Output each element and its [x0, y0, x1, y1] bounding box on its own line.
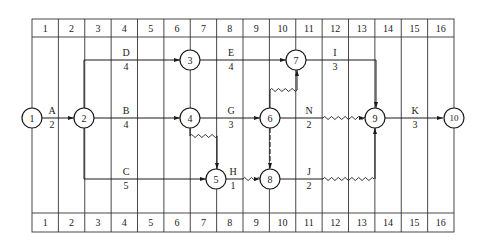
timeline-bottom-label: 5: [148, 217, 153, 228]
arrowhead-icon: [174, 116, 180, 120]
timeline-bottom-label: 4: [122, 217, 127, 228]
timeline-bottom-label: 9: [254, 217, 259, 228]
edge-dummy-6-7-wavy: [270, 89, 297, 92]
edge-d: [84, 60, 180, 108]
node-5: 5: [206, 169, 226, 189]
node-1: 1: [22, 108, 42, 128]
timeline-top-label: 7: [201, 23, 206, 34]
arrowhead-icon: [268, 163, 272, 169]
svg-text:6: 6: [268, 113, 273, 124]
timeline-bottom-label: 13: [357, 217, 367, 228]
node-7: 7: [286, 50, 306, 70]
svg-text:9: 9: [373, 113, 378, 124]
node-9: 9: [365, 108, 385, 128]
svg-text:8: 8: [268, 174, 273, 185]
timeline-top-label: 9: [254, 23, 259, 34]
timeline-bottom-label: 6: [175, 217, 180, 228]
timeline-bottom-label: 11: [304, 217, 314, 228]
edge-dummy-4-5-wavy: [190, 135, 217, 138]
activity-k-duration: 3: [413, 119, 418, 130]
svg-text:1: 1: [30, 113, 35, 124]
node-3: 3: [180, 50, 200, 70]
timeline-top-label: 5: [148, 23, 153, 34]
svg-text:10: 10: [450, 113, 460, 123]
activity-g-name: G: [227, 105, 234, 116]
timeline-top-label: 11: [304, 23, 314, 34]
arrowhead-icon: [215, 163, 219, 169]
timeline-top-label: 3: [95, 23, 100, 34]
svg-text:3: 3: [188, 55, 193, 66]
svg-text:7: 7: [294, 55, 299, 66]
activity-j-name: J: [307, 166, 311, 177]
timeline-bottom-label: 7: [201, 217, 206, 228]
activity-h-name: H: [229, 166, 236, 177]
svg-text:4: 4: [188, 113, 193, 124]
timeline-bottom-label: 2: [69, 217, 74, 228]
timeline-top-label: 12: [330, 23, 340, 34]
activity-a-name: A: [48, 105, 56, 116]
activity-b-name: B: [123, 105, 130, 116]
timeline-bottom-label: 3: [95, 217, 100, 228]
timeline-bottom-label: 15: [409, 217, 419, 228]
activity-b-duration: 4: [124, 119, 129, 130]
activity-k-name: K: [411, 105, 419, 116]
activity-n-name: N: [305, 105, 312, 116]
timeline-top-label: 2: [69, 23, 74, 34]
arrowhead-icon: [174, 58, 180, 62]
timeline-top-label: 4: [122, 23, 127, 34]
timeline-top-label: 15: [409, 23, 419, 34]
timeline-top-label: 6: [175, 23, 180, 34]
timeline-grid: [32, 19, 454, 232]
timeline-top-label: 8: [227, 23, 232, 34]
activity-c-name: C: [123, 166, 130, 177]
edge-c: [84, 128, 206, 179]
activity-e-duration: 4: [229, 61, 234, 72]
timeline-top-label: 13: [357, 23, 367, 34]
arrowhead-icon: [437, 116, 443, 120]
activity-h-duration: 1: [231, 180, 236, 191]
svg-text:5: 5: [214, 174, 219, 185]
node-6: 6: [260, 108, 280, 128]
arrowhead-icon: [280, 58, 286, 62]
timeline-top-label: 10: [278, 23, 288, 34]
node-8: 8: [260, 169, 280, 189]
timeline-top-label: 1: [43, 23, 48, 34]
node-10: 10: [444, 108, 464, 128]
top-timeline: 12345678910111213141516: [43, 23, 446, 34]
activity-d-name: D: [122, 47, 129, 58]
activity-e-name: E: [228, 47, 234, 58]
node-2: 2: [74, 108, 94, 128]
activity-g-duration: 3: [229, 119, 234, 130]
activity-labels: A 2 D 4 B 4 C 5 E 4 G 3 H 1 I 3 N 2 J 2 …: [48, 47, 419, 191]
timeline-bottom-label: 8: [227, 217, 232, 228]
timeline-bottom-label: 14: [383, 217, 393, 228]
svg-text:2: 2: [82, 113, 87, 124]
timeline-bottom-label: 1: [43, 217, 48, 228]
activity-c-duration: 5: [124, 180, 129, 191]
timeline-bottom-label: 12: [330, 217, 340, 228]
timeline-bottom-label: 16: [436, 217, 446, 228]
edge-i: [306, 60, 376, 108]
arrowhead-icon: [200, 177, 206, 181]
activity-d-duration: 4: [124, 61, 129, 72]
timeline-top-label: 16: [436, 23, 446, 34]
activity-j-duration: 2: [307, 180, 312, 191]
activity-i-duration: 3: [333, 61, 338, 72]
activity-n-duration: 2: [307, 119, 312, 130]
timeline-bottom-label: 10: [278, 217, 288, 228]
arrowhead-icon: [373, 128, 377, 134]
activity-i-name: I: [333, 47, 336, 58]
activity-a-duration: 2: [50, 119, 55, 130]
node-4: 4: [180, 108, 200, 128]
network-diagram: 12345678910111213141516 1234567891011121…: [0, 0, 482, 246]
arrowhead-icon: [68, 116, 74, 120]
bottom-timeline: 12345678910111213141516: [43, 217, 446, 228]
arrowhead-icon: [254, 116, 260, 120]
timeline-top-label: 14: [383, 23, 393, 34]
